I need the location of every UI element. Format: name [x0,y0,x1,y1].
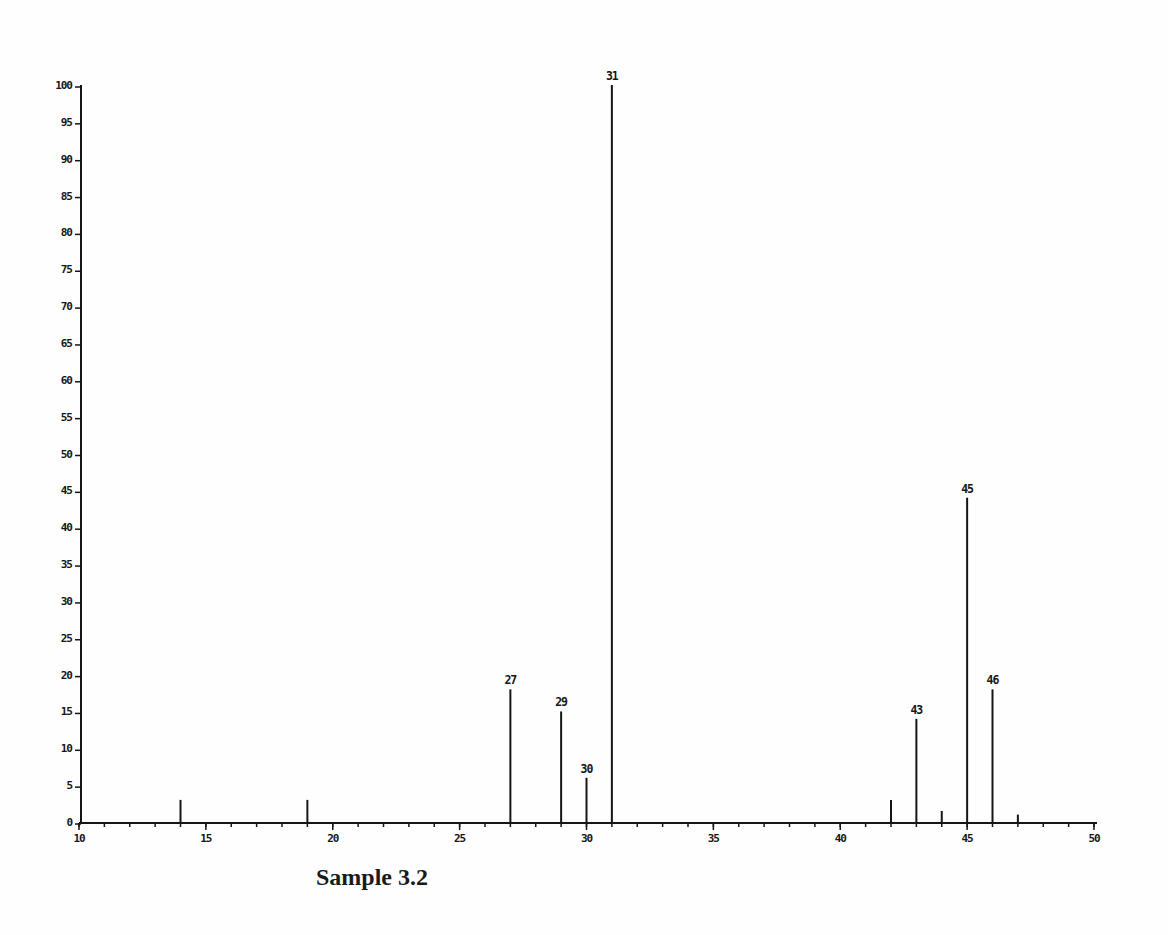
y-tick-label: 60 [61,374,73,387]
x-tick-label: 20 [327,832,339,845]
y-tick-label: 40 [61,521,73,534]
y-tick-label: 30 [61,595,73,608]
peak-label: 30 [581,762,594,776]
peak-label: 29 [555,695,568,709]
y-tick-label: 20 [61,669,73,682]
y-tick-label: 100 [55,79,72,92]
y-tick-label: 70 [61,300,73,313]
y-tick-label: 95 [61,116,73,129]
y-tick-label: 10 [61,742,73,755]
peak-label: 46 [987,673,1000,687]
chart-caption: Sample 3.2 [252,864,492,891]
y-tick-label: 0 [66,816,72,829]
y-tick-label: 55 [61,411,73,424]
x-tick-label: 15 [200,832,212,845]
y-tick-label: 90 [61,153,73,166]
peak-label: 27 [504,673,517,687]
y-tick-label: 65 [61,337,73,350]
x-tick-label: 40 [835,832,847,845]
peak-label: 31 [606,69,619,83]
x-tick-label: 45 [962,832,974,845]
x-tick-label: 35 [708,832,720,845]
peak-label: 43 [910,703,923,717]
y-tick-label: 35 [61,558,73,571]
y-tick-label: 5 [66,779,72,792]
x-tick-label: 10 [73,832,85,845]
y-tick-label: 25 [61,632,73,645]
y-tick-label: 80 [61,226,73,239]
x-tick-label: 50 [1088,832,1100,845]
y-tick-label: 50 [61,448,73,461]
scanned-spectrum-page: 0510152025303540455055606570758085909510… [0,0,1168,935]
x-tick-label: 25 [454,832,466,845]
y-tick-label: 75 [61,263,73,276]
y-tick-label: 15 [61,705,73,718]
x-tick-label: 30 [581,832,593,845]
peak-label: 45 [961,482,974,496]
y-tick-label: 85 [61,190,73,203]
spectrum-plot: 0510152025303540455055606570758085909510… [0,0,1168,935]
y-tick-label: 45 [61,484,73,497]
